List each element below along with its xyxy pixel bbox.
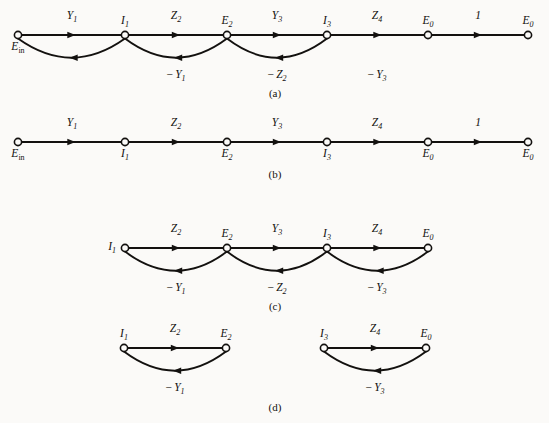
- graph-node-label: E2: [220, 147, 232, 162]
- graph-node-circle[interactable]: [223, 244, 230, 251]
- graph-node[interactable]: I3: [322, 138, 331, 162]
- graph-node-circle[interactable]: [121, 244, 128, 251]
- forward-edge-label: Z2: [170, 322, 180, 337]
- feedback-edge-path: [124, 352, 226, 371]
- forward-edge: Z2: [129, 116, 224, 145]
- graph-node-circle[interactable]: [121, 138, 128, 145]
- forward-edge: Y3: [231, 9, 324, 38]
- forward-edge: Z2: [129, 9, 224, 38]
- graph-node-circle[interactable]: [14, 138, 21, 145]
- forward-edge-arrowhead: [172, 245, 180, 252]
- forward-edge-arrowhead: [67, 139, 75, 146]
- forward-edge-arrowhead: [371, 345, 379, 352]
- graph-node-label: I3: [322, 14, 331, 29]
- graph-node[interactable]: E0: [421, 138, 433, 162]
- graph-node-circle[interactable]: [320, 344, 327, 351]
- graph-node[interactable]: I1: [119, 327, 128, 352]
- forward-edge-arrowhead: [273, 245, 281, 252]
- graph-node-circle[interactable]: [222, 344, 229, 351]
- forward-edge-label: Y1: [67, 9, 77, 24]
- graph-node-circle[interactable]: [524, 31, 531, 38]
- feedback-edge-arrowhead: [173, 367, 181, 374]
- graph-node-circle[interactable]: [424, 138, 431, 145]
- feedback-edge: − Z2: [227, 252, 327, 296]
- graph-node[interactable]: I1: [120, 138, 129, 162]
- forward-edge: Y1: [22, 116, 122, 145]
- feedback-edge-path: [324, 352, 426, 371]
- graph-node-label: E0: [521, 14, 533, 29]
- graph-node[interactable]: E0: [521, 138, 533, 162]
- feedback-edge-label: − Y3: [367, 68, 386, 83]
- graph-node-circle[interactable]: [323, 244, 330, 251]
- graph-node[interactable]: E0: [521, 14, 533, 39]
- graph-node[interactable]: I1: [120, 14, 129, 39]
- feedback-edge-label: − Z2: [267, 68, 286, 83]
- forward-edge-arrowhead: [172, 139, 180, 146]
- graph-node-circle[interactable]: [422, 344, 429, 351]
- feedback-edge-arrowhead: [376, 267, 384, 274]
- forward-edge-arrowhead: [474, 32, 482, 39]
- graph-node-circle[interactable]: [223, 31, 230, 38]
- graph-node[interactable]: Ein: [10, 138, 24, 162]
- graph-node-circle[interactable]: [424, 244, 431, 251]
- forward-edge-arrowhead: [172, 32, 180, 39]
- graph-node[interactable]: E2: [220, 14, 232, 39]
- graph-node-label: I1: [120, 14, 129, 29]
- graph-node-label: I3: [322, 227, 331, 242]
- graph-node-label: E0: [419, 327, 431, 342]
- feedback-edge: − Z2: [125, 39, 287, 83]
- graph-node-circle[interactable]: [323, 31, 330, 38]
- forward-edge: 1: [432, 9, 525, 38]
- forward-edge-label: 1: [475, 9, 481, 21]
- forward-edge-arrowhead: [67, 32, 75, 39]
- feedback-edge-arrowhead: [174, 267, 182, 274]
- graph-node-circle[interactable]: [120, 344, 127, 351]
- forward-edge-arrowhead: [273, 139, 281, 146]
- forward-edge-label: Z4: [372, 222, 382, 237]
- graph-node-circle[interactable]: [524, 138, 531, 145]
- forward-edge-arrowhead: [171, 345, 179, 352]
- forward-edge-label: Z4: [370, 322, 380, 337]
- graph-node-label: I3: [322, 147, 331, 162]
- graph-node[interactable]: E2: [220, 138, 232, 162]
- forward-edge-arrowhead: [373, 32, 381, 39]
- feedback-edge-label: − Y3: [365, 381, 384, 396]
- graph-node-label: I1: [107, 240, 116, 255]
- feedback-edge-path: [18, 39, 125, 58]
- forward-edge-label: Y3: [272, 222, 282, 237]
- graph-node[interactable]: E2: [220, 227, 232, 252]
- graph-node[interactable]: Ein: [10, 31, 24, 55]
- graph-node[interactable]: I3: [322, 14, 331, 39]
- feedback-edge-path: [125, 252, 227, 271]
- forward-edge-arrowhead: [273, 32, 281, 39]
- graph-node-label: E2: [219, 327, 231, 342]
- graph-node[interactable]: E2: [219, 327, 231, 352]
- panel-c: − Y1− Z2− Y3Z2Y3Z4I1E2I3E0(c): [107, 222, 433, 313]
- forward-edge-arrowhead: [474, 139, 482, 146]
- feedback-edge: − Y1: [18, 39, 186, 83]
- signal-flow-graph-figure: − Y1− Z2− Y3Y1Z2Y3Z41EinI1E2I3E0E0(a)Y1Z…: [0, 0, 549, 423]
- graph-node-circle[interactable]: [14, 31, 21, 38]
- forward-edge-label: Z2: [171, 222, 181, 237]
- graph-node[interactable]: I3: [322, 227, 331, 252]
- graph-node-label: Ein: [10, 40, 24, 55]
- forward-edge-arrowhead: [373, 139, 381, 146]
- feedback-edge-path: [327, 252, 428, 271]
- graph-node-circle[interactable]: [424, 31, 431, 38]
- graph-node[interactable]: E0: [421, 227, 433, 252]
- graph-node[interactable]: I3: [319, 327, 328, 352]
- graph-node-label: E0: [421, 147, 433, 162]
- graph-node-circle[interactable]: [223, 138, 230, 145]
- forward-edge: 1: [432, 116, 525, 145]
- graph-node-circle[interactable]: [121, 31, 128, 38]
- graph-node-label: I1: [119, 327, 128, 342]
- panel-b: Y1Z2Y3Z41EinI1E2I3E0E0(b): [10, 116, 533, 181]
- feedback-edge-label: − Y1: [166, 281, 185, 296]
- graph-node[interactable]: E0: [419, 327, 431, 352]
- forward-edge-label: Y3: [272, 9, 282, 24]
- graph-node[interactable]: E0: [421, 14, 433, 39]
- graph-node-label: E0: [421, 227, 433, 242]
- graph-node-circle[interactable]: [323, 138, 330, 145]
- graph-node[interactable]: I1: [107, 240, 128, 255]
- signal-flow-graph-canvas: − Y1− Z2− Y3Y1Z2Y3Z41EinI1E2I3E0E0(a)Y1Z…: [0, 0, 549, 423]
